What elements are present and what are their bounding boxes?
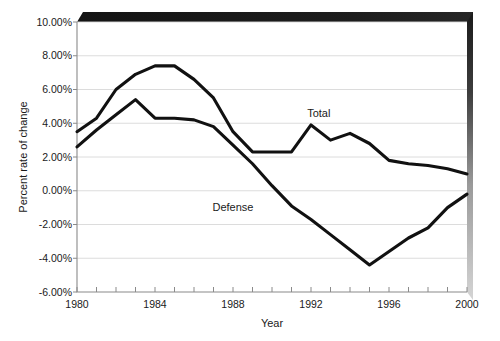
y-axis-tick-label: -2.00% bbox=[39, 218, 72, 230]
y-axis-tick-label: 4.00% bbox=[42, 117, 72, 129]
series-annotation-total: Total bbox=[307, 107, 330, 119]
chart-container: -6.00%-4.00%-2.00%0.00%2.00%4.00%6.00%8.… bbox=[0, 0, 500, 341]
y-axis-title: Percent rate of change bbox=[17, 101, 29, 212]
y-axis-tick-label: 0.00% bbox=[42, 184, 72, 196]
x-axis-tick-marks bbox=[77, 287, 467, 292]
chart-right-shadow-decoration bbox=[467, 12, 473, 300]
y-axis-tick-label: 2.00% bbox=[42, 151, 72, 163]
line-chart: -6.00%-4.00%-2.00%0.00%2.00%4.00%6.00%8.… bbox=[0, 0, 500, 341]
y-axis-tick-label: 10.00% bbox=[36, 16, 72, 28]
y-axis-tick-label: -6.00% bbox=[39, 286, 72, 298]
y-axis-tick-labels: -6.00%-4.00%-2.00%0.00%2.00%4.00%6.00%8.… bbox=[36, 16, 77, 298]
x-axis-tick-label: 1980 bbox=[65, 298, 89, 310]
series-annotation-defense: Defense bbox=[213, 201, 254, 213]
x-axis-tick-label: 2000 bbox=[455, 298, 479, 310]
x-axis-tick-labels: 198019841988199219962000 bbox=[65, 298, 479, 310]
x-axis-tick-label: 1984 bbox=[143, 298, 167, 310]
x-axis-tick-label: 1992 bbox=[299, 298, 323, 310]
chart-top-band-decoration bbox=[77, 12, 473, 22]
y-axis-tick-label: -4.00% bbox=[39, 252, 72, 264]
x-axis-title: Year bbox=[261, 317, 284, 329]
x-axis-tick-label: 1996 bbox=[377, 298, 401, 310]
y-axis-tick-label: 6.00% bbox=[42, 83, 72, 95]
x-axis-tick-label: 1988 bbox=[221, 298, 245, 310]
y-axis-tick-label: 8.00% bbox=[42, 49, 72, 61]
